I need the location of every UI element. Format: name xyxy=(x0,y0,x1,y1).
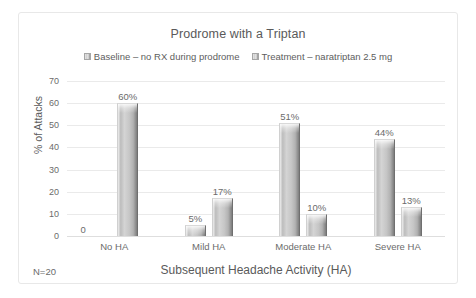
y-axis-tick-label: 30 xyxy=(49,165,59,175)
x-axis-tick-label: Mild HA xyxy=(192,241,225,252)
y-axis-tick-label: 50 xyxy=(49,120,59,130)
bar-group: 51%10% xyxy=(256,81,351,236)
legend-label-treatment: Treatment – naratriptan 2.5 mg xyxy=(262,51,393,62)
chart-title: Prodrome with a Triptan xyxy=(19,27,457,41)
x-axis-tick-label: No HA xyxy=(100,241,128,252)
legend-item-treatment[interactable]: Treatment – naratriptan 2.5 mg xyxy=(252,51,393,62)
bar-slot: 13% xyxy=(401,81,422,236)
x-axis-title: Subsequent Headache Activity (HA) xyxy=(67,263,445,277)
bar-value-label: 17% xyxy=(213,186,232,197)
y-axis-tick-label: 40 xyxy=(49,142,59,152)
y-axis-tick-label: 70 xyxy=(49,76,59,86)
bar-value-label: 0 xyxy=(81,224,86,235)
bar-value-label: 44% xyxy=(375,127,394,138)
bar[interactable]: 44% xyxy=(374,139,395,236)
legend-item-baseline[interactable]: Baseline – no RX during prodrome xyxy=(84,51,240,62)
gridline xyxy=(67,236,445,237)
bars-layer: 060%5%17%51%10%44%13% xyxy=(67,81,445,236)
bar[interactable]: 51% xyxy=(279,123,300,236)
bar-value-label: 5% xyxy=(188,213,202,224)
bar[interactable]: 10% xyxy=(306,214,327,236)
bar-value-label: 13% xyxy=(402,195,421,206)
bar-group: 5%17% xyxy=(162,81,257,236)
x-axis-tick-label: Severe HA xyxy=(375,241,421,252)
y-axis-tick-label: 60 xyxy=(49,98,59,108)
y-axis-title: % of Attacks xyxy=(32,80,44,170)
bar[interactable]: 17% xyxy=(212,198,233,236)
bar-slot: 10% xyxy=(306,81,327,236)
bar-group: 060% xyxy=(67,81,162,236)
bar-value-label: 10% xyxy=(307,202,326,213)
bar-group: 44%13% xyxy=(351,81,446,236)
bar[interactable]: 5% xyxy=(185,225,206,236)
legend-swatch-icon xyxy=(252,53,259,60)
sample-size-annotation: N=20 xyxy=(33,266,56,277)
bar-value-label: 51% xyxy=(280,111,299,122)
y-axis-tick-label: 0 xyxy=(54,231,59,241)
chart-legend: Baseline – no RX during prodrome Treatme… xyxy=(19,51,457,62)
bar[interactable]: 60% xyxy=(117,103,138,236)
bar-slot: 5% xyxy=(185,81,206,236)
plot-area: 060%5%17%51%10%44%13% xyxy=(67,81,445,236)
bar[interactable]: 13% xyxy=(401,207,422,236)
chart-container: Prodrome with a Triptan Baseline – no RX… xyxy=(18,12,458,284)
y-axis-tick-label: 20 xyxy=(49,187,59,197)
x-axis-tick-labels: No HAMild HAModerate HASevere HA xyxy=(67,241,445,255)
bar-slot: 44% xyxy=(374,81,395,236)
bar-slot: 51% xyxy=(279,81,300,236)
y-axis-tick-label: 10 xyxy=(49,209,59,219)
legend-label-baseline: Baseline – no RX during prodrome xyxy=(94,51,240,62)
bar-slot: 17% xyxy=(212,81,233,236)
x-axis-tick-label: Moderate HA xyxy=(275,241,331,252)
bar-slot: 0 xyxy=(90,81,111,236)
legend-swatch-icon xyxy=(84,53,91,60)
bar-slot: 60% xyxy=(117,81,138,236)
bar-value-label: 60% xyxy=(118,91,137,102)
